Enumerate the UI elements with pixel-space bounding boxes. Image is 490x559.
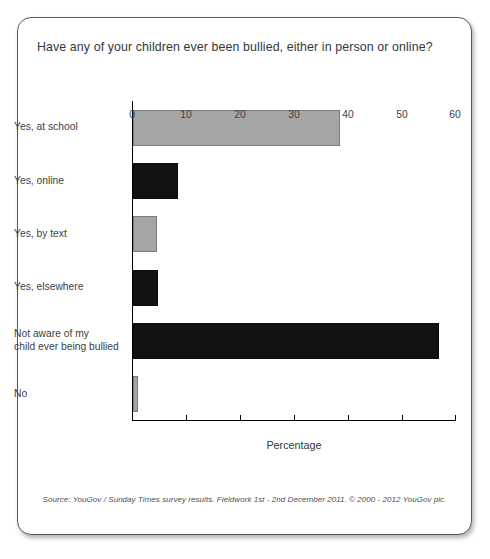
bar-row: No [133, 368, 138, 421]
bar-row: Yes, by text [133, 208, 157, 261]
bar-yes-elsewhere[interactable] [133, 270, 158, 306]
bar-not-aware[interactable] [133, 323, 439, 359]
x-tick [294, 415, 295, 421]
x-tick-label: 10 [180, 109, 191, 120]
x-tick [402, 415, 403, 421]
chart-title: Have any of your children ever been bull… [37, 40, 457, 54]
bar-row: Yes, online [133, 154, 178, 207]
category-label: Yes, by text [14, 228, 119, 241]
category-label: Yes, at school [14, 121, 119, 134]
bar-row: Not aware of my child ever being bullied [133, 314, 439, 367]
x-tick [455, 415, 456, 421]
bar-no[interactable] [133, 376, 138, 412]
plot-area: Yes, at school Yes, online Yes, by text … [132, 101, 456, 421]
x-tick-label: 40 [342, 109, 353, 120]
x-tick-label: 30 [288, 109, 299, 120]
x-axis-title: Percentage [132, 439, 456, 451]
x-tick [240, 415, 241, 421]
x-tick [186, 415, 187, 421]
chart-card: Have any of your children ever been bull… [17, 17, 472, 535]
x-tick-label: 0 [129, 109, 135, 120]
x-tick-label: 60 [449, 109, 460, 120]
bar-row: Yes, elsewhere [133, 261, 158, 314]
bar-yes-by-text[interactable] [133, 216, 157, 252]
category-label: Yes, elsewhere [14, 281, 119, 294]
source-footnote: Source: YouGov / Sunday Times survey res… [18, 495, 471, 504]
x-tick-label: 50 [396, 109, 407, 120]
category-label: No [14, 388, 119, 401]
x-tick [348, 415, 349, 421]
x-tick [132, 415, 133, 421]
category-label: Not aware of my child ever being bullied [14, 328, 119, 353]
category-label: Yes, online [14, 175, 119, 188]
x-tick-label: 20 [234, 109, 245, 120]
bar-yes-online[interactable] [133, 163, 178, 199]
